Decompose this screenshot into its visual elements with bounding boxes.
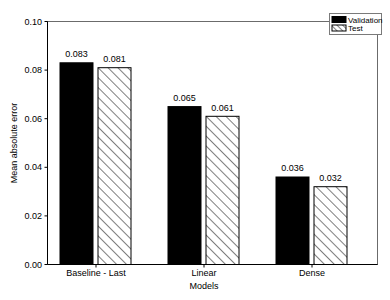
legend-label-test: Test — [348, 24, 363, 33]
bar-validation-baseline-last — [60, 63, 93, 265]
legend: Validation Test — [330, 14, 383, 35]
bar-validation-linear — [168, 107, 201, 265]
bar-test-dense — [314, 187, 347, 265]
bar-value-label-test-dense: 0.032 — [319, 173, 342, 183]
bar-value-label-validation-dense: 0.036 — [281, 163, 304, 173]
x-tick-label-baseline-last: Baseline - Last — [66, 268, 126, 278]
bar-value-label-validation-baseline-last: 0.083 — [65, 49, 88, 59]
bar-validation-dense — [276, 177, 309, 265]
y-tick-label-0.10: 0.10 — [24, 17, 42, 27]
bar-value-label-test-baseline-last: 0.081 — [103, 54, 126, 64]
y-tick-label-0.08: 0.08 — [24, 65, 42, 75]
bar-test-baseline-last — [98, 68, 131, 265]
y-tick-label-0.02: 0.02 — [24, 211, 42, 221]
y-tick-label-0.04: 0.04 — [24, 162, 42, 172]
y-tick-label-0.00: 0.00 — [24, 260, 42, 270]
x-tick-label-dense: Dense — [299, 268, 325, 278]
bar-value-label-validation-linear: 0.065 — [173, 93, 196, 103]
x-tick-label-linear: Linear — [191, 268, 216, 278]
bar-value-label-test-linear: 0.061 — [211, 103, 234, 113]
y-axis-title: Mean absolute error — [9, 103, 19, 184]
legend-swatch-validation-icon — [332, 17, 346, 23]
x-axis-title: Models — [189, 281, 219, 291]
y-tick-label-0.06: 0.06 — [24, 114, 42, 124]
bar-test-linear — [206, 116, 239, 264]
bar-chart-figure: 0.10 0.08 0.06 0.04 0.02 0.00 Mean absol… — [0, 0, 390, 300]
legend-swatch-test-icon — [332, 25, 346, 31]
